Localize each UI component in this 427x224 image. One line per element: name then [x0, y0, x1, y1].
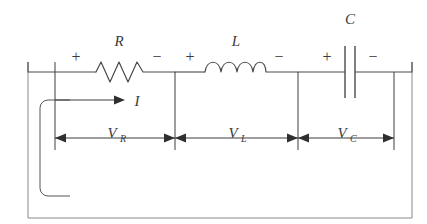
v-r-label-group: V R [107, 125, 126, 144]
circuit-figure: I V R V L V C R L C + − + − [0, 0, 427, 224]
current-arrowhead [114, 96, 125, 105]
v-c-label-subscript: C [350, 133, 357, 144]
capacitor-plus-sign: + [322, 48, 331, 65]
inductor-minus-sign: − [274, 48, 283, 65]
v-r-arrowhead-right [164, 134, 175, 143]
v-r-arrowhead-left [55, 134, 66, 143]
v-r-label-subscript: R [119, 133, 126, 144]
v-l-label-base: V [228, 125, 239, 141]
v-c-arrowhead-right [383, 134, 394, 143]
v-c-arrowhead-left [298, 134, 309, 143]
v-r-label-base: V [107, 125, 118, 141]
v-l-label-subscript: L [240, 133, 247, 144]
resistor-symbol [96, 62, 175, 82]
v-c-label-base: V [337, 125, 348, 141]
wire-top-left [28, 62, 96, 72]
capacitor-minus-sign: − [368, 48, 377, 65]
resistor-label: R [113, 33, 123, 49]
inductor-plus-sign: + [185, 48, 194, 65]
inductor-symbol [205, 62, 298, 72]
inductor-label: L [231, 33, 240, 49]
capacitor-label: C [345, 11, 356, 27]
wire-top-right-corner [394, 62, 412, 72]
v-c-label-group: V C [337, 125, 357, 144]
v-l-label-group: V L [228, 125, 247, 144]
circuit-svg: I V R V L V C R L C + − + − [0, 0, 427, 224]
resistor-plus-sign: + [71, 48, 80, 65]
v-l-arrowhead-left [175, 134, 186, 143]
v-l-arrowhead-right [287, 134, 298, 143]
current-label: I [134, 93, 141, 109]
resistor-minus-sign: − [152, 48, 161, 65]
